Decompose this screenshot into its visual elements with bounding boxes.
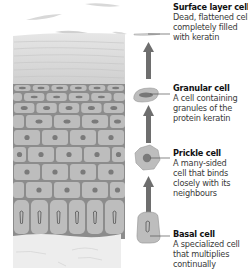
label-title: Granular cell [173,83,248,93]
label-description-line: continually [173,259,248,269]
arrow-up-icon [143,176,154,213]
label-description-line: A cell containing [173,93,248,103]
label-description-line: A many-sided [173,158,248,168]
prickle-cell-label: Prickle cell A many-sided cell that bind… [173,148,248,198]
label-description-line: granules of the [173,103,248,113]
arrow-up-icon [143,42,154,79]
label-title: Surface layer cell [173,2,248,12]
label-description-line: completely filled [173,22,248,32]
label-description-line: cell that binds [173,168,248,178]
basal-cell-label: Basal cell A specialized cell that multi… [173,229,248,269]
label-description-line: A specialized cell [173,239,248,249]
label-title: Prickle cell [173,148,248,158]
label-title: Basal cell [173,229,248,239]
label-description-line: protein keratin [173,113,248,123]
label-description-line: with keratin [173,32,248,42]
granular-cell-icon [134,88,170,102]
surface-layer-cell-label: Surface layer cell Dead, flattened cell … [173,2,248,42]
cell-icons-column [0,0,175,274]
basal-cell-icon [137,212,170,243]
label-description-line: neighbours [173,188,248,198]
label-description-line: that multiplies [173,249,248,259]
prickle-cell-icon [135,145,170,170]
label-description-line: closely with its [173,178,248,188]
arrow-up-icon [143,105,154,143]
granular-cell-label: Granular cell A cell containing granules… [173,83,248,123]
surface-cell-icon [134,34,170,36]
label-description-line: Dead, flattened cell [173,12,248,22]
